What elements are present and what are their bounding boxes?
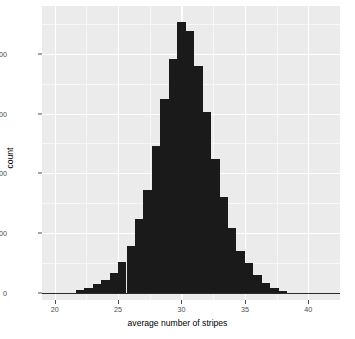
- histogram-bar: [186, 31, 194, 293]
- baseline-axis: [42, 293, 340, 294]
- x-axis-tick-mark: [308, 300, 309, 304]
- histogram-bar: [118, 262, 126, 292]
- x-axis-tick-mark: [55, 300, 56, 304]
- y-axis-tick-mark: [38, 233, 42, 234]
- y-axis-tick-mark: [38, 53, 42, 54]
- histogram-bar: [203, 112, 211, 292]
- histogram-bar: [228, 228, 236, 293]
- y-axis-tick-label: 0: [3, 288, 7, 297]
- y-axis-tick-label: 500: [0, 229, 7, 238]
- x-axis-label: average number of stripes: [0, 318, 355, 328]
- gridline-major-vertical: [245, 6, 246, 300]
- x-axis-tick-label: 40: [304, 305, 312, 314]
- histogram-bar: [101, 280, 109, 293]
- x-axis-tick-label: 35: [241, 305, 249, 314]
- x-axis-tick-label: 25: [114, 305, 122, 314]
- histogram-bar: [177, 22, 185, 293]
- histogram-bar: [169, 59, 177, 293]
- plot-panel: [42, 6, 340, 300]
- y-axis-tick-mark: [38, 113, 42, 114]
- histogram-bar: [219, 197, 227, 293]
- gridline-major-vertical: [118, 6, 119, 300]
- gridline-minor-horizontal: [42, 24, 340, 25]
- histogram-bar: [160, 99, 168, 293]
- histogram-bar: [262, 283, 270, 293]
- y-axis-tick-mark: [38, 292, 42, 293]
- gridline-minor-vertical: [86, 6, 87, 300]
- histogram-figure: 0500100015002000 2025303540 average numb…: [0, 0, 355, 339]
- histogram-bar: [127, 246, 135, 293]
- x-axis-tick-mark: [181, 300, 182, 304]
- histogram-bar: [236, 251, 244, 293]
- gridline-major-vertical: [55, 6, 56, 300]
- x-axis-tick-mark: [118, 300, 119, 304]
- histogram-bar: [211, 159, 219, 293]
- x-axis-tick-label: 20: [51, 305, 59, 314]
- histogram-bar: [194, 66, 202, 293]
- histogram-bar: [152, 146, 160, 292]
- histogram-bar: [135, 219, 143, 293]
- histogram-bar: [110, 273, 118, 293]
- histogram-bar: [253, 275, 261, 293]
- x-axis-tick-label: 30: [177, 305, 185, 314]
- histogram-bar: [93, 284, 101, 293]
- histogram-bar: [245, 263, 253, 293]
- y-axis-tick-label: 1500: [0, 109, 7, 118]
- y-axis-tick-mark: [38, 173, 42, 174]
- histogram-bar: [143, 190, 151, 293]
- x-axis-tick-mark: [245, 300, 246, 304]
- y-axis-label: count: [5, 128, 15, 188]
- gridline-major-vertical: [308, 6, 309, 300]
- gridline-minor-vertical: [277, 6, 278, 300]
- y-axis-tick-label: 2000: [0, 49, 7, 58]
